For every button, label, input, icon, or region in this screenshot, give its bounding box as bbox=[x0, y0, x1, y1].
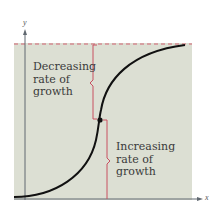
diagram-canvas bbox=[0, 0, 211, 203]
logistic-growth-figure: y x Decreasing rate of growth Increasing… bbox=[0, 0, 211, 203]
y-axis-label: y bbox=[23, 18, 27, 27]
lower-annotation-line-3: growth bbox=[116, 166, 175, 179]
upper-annotation-line-1: Decreasing bbox=[33, 61, 96, 74]
inflection-point bbox=[97, 117, 102, 122]
upper-annotation: Decreasing rate of growth bbox=[33, 61, 96, 99]
x-axis-arrow-icon bbox=[197, 197, 203, 201]
lower-annotation: Increasing rate of growth bbox=[116, 141, 175, 179]
x-axis-label: x bbox=[205, 193, 209, 202]
y-axis-arrow-icon bbox=[23, 29, 27, 35]
lower-annotation-line-1: Increasing bbox=[116, 141, 175, 154]
upper-annotation-line-3: growth bbox=[33, 86, 96, 99]
